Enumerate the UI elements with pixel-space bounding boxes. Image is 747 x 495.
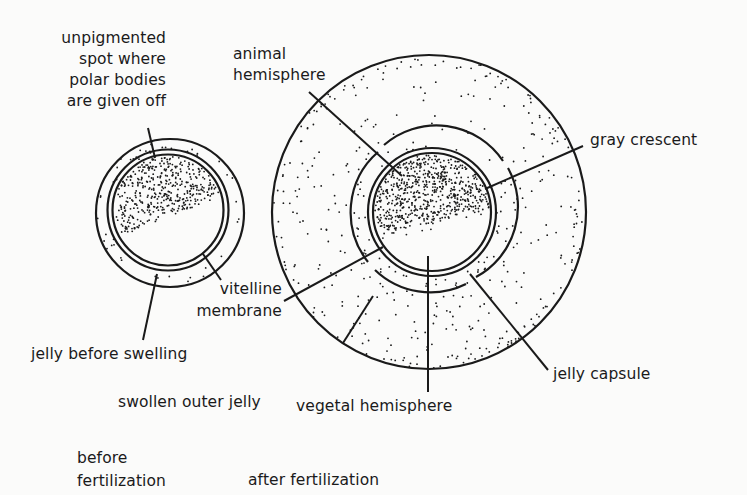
- label-swollen-outer-jelly: swollen outer jelly: [118, 392, 261, 412]
- label-animal-hemisphere: animal hemisphere: [233, 44, 326, 86]
- label-vegetal-hemisphere: vegetal hemisphere: [296, 396, 452, 416]
- egg-before-fertilization: [96, 139, 244, 287]
- fertilization-diagram: unpigmented spot where polar bodies are …: [0, 0, 747, 495]
- label-jelly-before-swelling: jelly before swelling: [31, 344, 187, 364]
- leader-lines: [143, 92, 583, 392]
- label-vitelline-membrane: vitelline membrane: [196, 278, 282, 322]
- caption-after-fertilization: after fertilization: [248, 470, 379, 490]
- egg-surface-outline: [113, 155, 224, 266]
- jelly-capsule-stipple: [353, 142, 507, 288]
- leader-animal-hemisphere: [309, 92, 402, 176]
- leader-swollen-outer-jelly: [343, 296, 373, 343]
- leader-gray-crescent: [485, 146, 583, 189]
- caption-before-fertilization: before fertilization: [77, 447, 166, 493]
- label-unpigmented-spot: unpigmented spot where polar bodies are …: [30, 28, 166, 112]
- label-jelly-capsule: jelly capsule: [553, 364, 650, 384]
- leader-vitelline-membrane-after: [284, 247, 383, 301]
- label-gray-crescent: gray crescent: [590, 130, 697, 150]
